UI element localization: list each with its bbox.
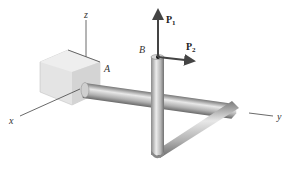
point-b-label: B xyxy=(139,44,145,55)
x-axis-label: x xyxy=(8,115,14,126)
point-a-label: A xyxy=(103,63,111,74)
rod-diagram: z x A B P1 P2 y xyxy=(0,0,289,169)
force-p1-label: P1 xyxy=(166,14,176,27)
y-axis-label: y xyxy=(276,111,282,122)
rod-segment-vertical xyxy=(151,55,164,159)
z-axis-label: z xyxy=(83,9,88,20)
force-p2-label: P2 xyxy=(186,41,196,54)
y-axis xyxy=(249,113,273,116)
